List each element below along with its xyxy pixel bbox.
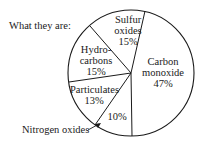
label-hydro-line2: carbons	[76, 55, 116, 66]
label-carbon-pct: 47%	[140, 78, 186, 89]
label-sulfur-oxides: Sulfur oxides 15%	[108, 14, 148, 47]
label-nitrogen-oxides-callout: Nitrogen oxides	[22, 124, 89, 135]
label-carbon-line1: Carbon	[140, 56, 186, 67]
label-sulfur-line2: oxides	[108, 25, 148, 36]
label-carbon-line2: monoxide	[140, 67, 186, 78]
label-particulates: Particulates 13%	[70, 84, 118, 106]
label-particulates-line1: Particulates	[70, 84, 118, 95]
label-sulfur-line1: Sulfur	[108, 14, 148, 25]
label-particulates-pct: 13%	[70, 95, 118, 106]
label-hydro-line1: Hydro-	[76, 44, 116, 55]
label-carbon-monoxide: Carbon monoxide 47%	[140, 56, 186, 89]
label-hydro-pct: 15%	[76, 66, 116, 77]
chart-heading: What they are:	[9, 20, 71, 31]
label-nitrogen-pct: 10%	[106, 111, 128, 122]
pie-chart: What they are: Sulfur oxides 15% Hydro- …	[0, 0, 202, 152]
label-hydrocarbons: Hydro- carbons 15%	[76, 44, 116, 77]
